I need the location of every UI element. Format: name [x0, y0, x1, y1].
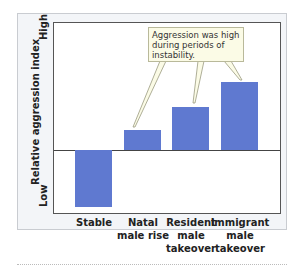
y-tick-high: High — [38, 14, 49, 40]
annotation-callout: Aggression was high during periods of in… — [148, 27, 244, 62]
y-axis-title: Relative aggression index — [30, 39, 41, 185]
y-tick-low: Low — [38, 185, 49, 207]
x-label-immigrant-male-takeover: Immigrant male takeover — [209, 216, 271, 255]
callout-text: Aggression was high during periods of in… — [152, 30, 239, 60]
divider — [17, 264, 287, 265]
